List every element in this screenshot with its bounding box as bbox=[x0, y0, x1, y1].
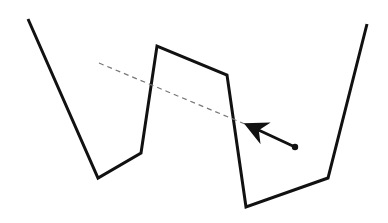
source-point bbox=[292, 144, 298, 150]
direction-arrow bbox=[252, 127, 295, 147]
diagram-canvas bbox=[0, 0, 388, 223]
diagram-svg bbox=[0, 0, 388, 223]
boundary-polyline bbox=[28, 19, 367, 207]
